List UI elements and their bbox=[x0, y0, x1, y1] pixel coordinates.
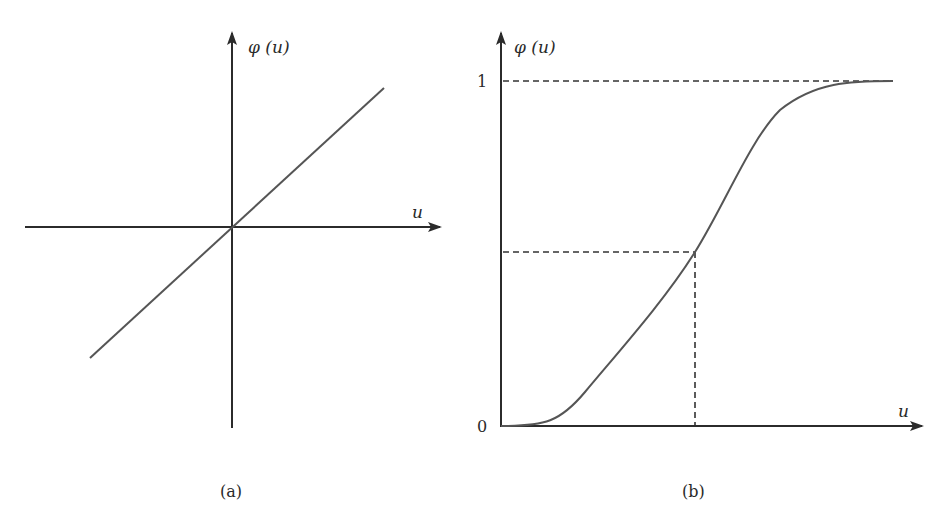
panel-a-linear-curve bbox=[90, 88, 384, 358]
panel-b-tick-zero: 0 bbox=[477, 417, 487, 436]
panel-a-y-label: φ (u) bbox=[248, 37, 290, 57]
panel-b-y-label: φ (u) bbox=[514, 37, 556, 57]
panel-a: φ (u) u (a) bbox=[25, 33, 440, 501]
panel-b-sigmoid-curve bbox=[501, 81, 893, 426]
panel-b-caption: (b) bbox=[682, 482, 705, 501]
panel-a-x-label: u bbox=[412, 202, 423, 222]
panel-a-caption: (a) bbox=[220, 482, 242, 501]
panel-b-x-label: u bbox=[898, 401, 909, 421]
figure-canvas: φ (u) u (a) φ (u) u 1 0 (b) bbox=[0, 0, 949, 522]
panel-b-tick-one: 1 bbox=[477, 72, 487, 91]
panel-b: φ (u) u 1 0 (b) bbox=[477, 33, 922, 501]
